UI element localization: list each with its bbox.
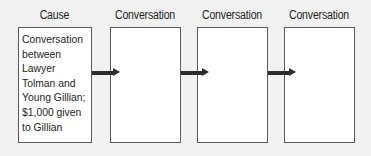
conversation-box-2 xyxy=(197,27,268,143)
arrow-right-icon xyxy=(268,68,296,77)
arrow-right-icon xyxy=(92,68,120,77)
cause-box: Conversation between Lawyer Tolman and Y… xyxy=(18,27,92,143)
heading-conversation-3: Conversation xyxy=(283,8,355,22)
cause-box-text: Conversation between Lawyer Tolman and Y… xyxy=(22,32,94,134)
heading-conversation-1: Conversation xyxy=(109,8,181,22)
conversation-box-3 xyxy=(284,27,355,143)
arrow-right-icon xyxy=(181,68,209,77)
conversation-box-1 xyxy=(110,27,181,143)
heading-cause: Cause xyxy=(22,8,86,22)
heading-conversation-2: Conversation xyxy=(196,8,268,22)
